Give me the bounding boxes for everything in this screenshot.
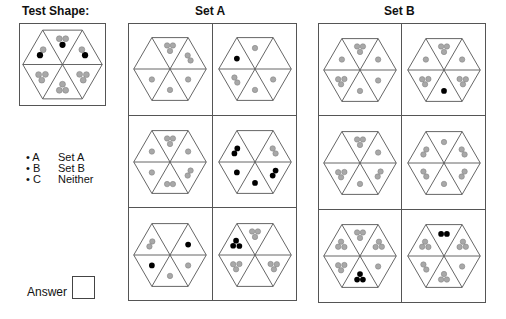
legend-row-c: • CNeither: [26, 174, 93, 185]
hexagon-figure: [320, 219, 400, 293]
hexagon-figure: [320, 126, 400, 200]
hexagon-figure: [404, 219, 484, 293]
test-shape-title: Test Shape:: [22, 4, 89, 18]
set-b-cell-3: [318, 116, 402, 209]
answer-label: Answer: [27, 285, 67, 299]
test-hexagon: [20, 24, 105, 105]
set-a-cell-2: [213, 23, 298, 116]
set-a-title: Set A: [195, 4, 225, 18]
hexagon-figure: [320, 33, 400, 107]
hexagon-figure: [404, 33, 484, 107]
legend-value: Neither: [58, 174, 93, 185]
answer-input-box[interactable]: [72, 276, 95, 299]
set-b-cell-1: [318, 23, 402, 116]
set-a-cell-1: [128, 23, 213, 116]
hexagon-figure: [130, 125, 210, 199]
hexagon-figure: [404, 126, 484, 200]
hexagon-figure: [215, 125, 295, 199]
hexagon-figure: [130, 218, 210, 292]
set-a-cell-3: [128, 116, 213, 209]
legend-key: • C: [26, 174, 58, 185]
set-a-cell-4: [213, 116, 298, 209]
set-a-cell-5: [128, 208, 213, 301]
set-b-title: Set B: [384, 4, 415, 18]
set-a-cell-6: [213, 208, 298, 301]
answer-legend: • ASet A • BSet B • CNeither: [26, 152, 93, 185]
test-shape-panel: [19, 23, 106, 106]
set-b-cell-4: [402, 116, 486, 209]
set-b-cell-6: [402, 210, 486, 303]
hexagon-figure: [130, 32, 210, 106]
hexagon-figure: [215, 218, 295, 292]
set-b-cell-5: [318, 210, 402, 303]
set-b-cell-2: [402, 23, 486, 116]
hexagon-figure: [215, 32, 295, 106]
